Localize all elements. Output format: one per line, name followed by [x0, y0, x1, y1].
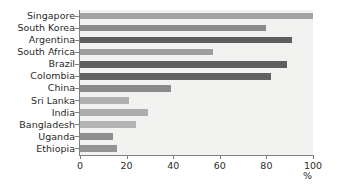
bar [80, 49, 213, 56]
category-label: Singapore [0, 10, 75, 22]
x-axis-tick [266, 155, 267, 159]
bar-row: Colombia [0, 70, 337, 82]
bar [80, 109, 148, 116]
bar-row: South Africa [0, 46, 337, 58]
y-axis-tick [75, 136, 79, 137]
x-axis-ticks: 020406080100 [0, 155, 337, 175]
bar-row: China [0, 82, 337, 94]
y-axis-tick [75, 40, 79, 41]
category-label: Sri Lanka [0, 95, 75, 107]
bar [80, 85, 171, 92]
x-axis-tick [127, 155, 128, 159]
y-axis-tick [75, 76, 79, 77]
category-label: Uganda [0, 131, 75, 143]
y-axis-tick [75, 28, 79, 29]
y-axis-tick [75, 16, 79, 17]
category-label: Ethiopia [0, 143, 75, 155]
x-axis-tick-label: 100 [293, 160, 333, 172]
bar-row: Ethiopia [0, 143, 337, 155]
bar [80, 61, 287, 68]
bar-row: Uganda [0, 131, 337, 143]
bar [80, 37, 292, 44]
y-axis-tick [75, 148, 79, 149]
y-axis-tick [75, 100, 79, 101]
bar [80, 25, 266, 32]
bar-row: Bangladesh [0, 119, 337, 131]
bar-row: Argentina [0, 34, 337, 46]
y-axis-tick [75, 88, 79, 89]
bar [80, 133, 113, 140]
bar [80, 121, 136, 128]
x-axis-unit-label: % [303, 170, 312, 181]
bar [80, 73, 271, 80]
x-axis-tick [313, 155, 314, 159]
bar-row: India [0, 107, 337, 119]
x-axis-tick-label: 40 [153, 160, 193, 172]
x-axis-tick [173, 155, 174, 159]
category-label: South Korea [0, 22, 75, 34]
bar-row: Brazil [0, 58, 337, 70]
x-axis-tick-label: 80 [246, 160, 286, 172]
bar [80, 145, 117, 152]
category-label: Colombia [0, 70, 75, 82]
y-axis-tick [75, 52, 79, 53]
y-axis-tick [75, 124, 79, 125]
bar [80, 13, 313, 20]
category-label: South Africa [0, 46, 75, 58]
category-label: Brazil [0, 58, 75, 70]
y-axis-tick [75, 112, 79, 113]
bar-row: South Korea [0, 22, 337, 34]
category-label: Argentina [0, 34, 75, 46]
bar-rows: SingaporeSouth KoreaArgentinaSouth Afric… [0, 10, 337, 155]
bar [80, 97, 129, 104]
bar-row: Singapore [0, 10, 337, 22]
category-label: India [0, 107, 75, 119]
category-label: China [0, 82, 75, 94]
x-axis-tick [80, 155, 81, 159]
bar-chart: SingaporeSouth KoreaArgentinaSouth Afric… [0, 0, 337, 186]
bar-row: Sri Lanka [0, 95, 337, 107]
x-axis-tick-label: 20 [107, 160, 147, 172]
category-label: Bangladesh [0, 119, 75, 131]
x-axis-tick [220, 155, 221, 159]
y-axis-tick [75, 64, 79, 65]
x-axis-tick-label: 60 [200, 160, 240, 172]
x-axis-tick-label: 0 [60, 160, 100, 172]
